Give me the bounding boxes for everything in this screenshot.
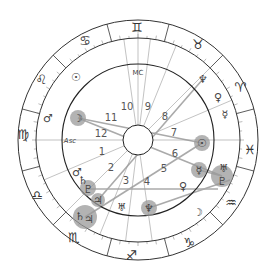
sign-aries-icon: ♈ — [234, 80, 246, 95]
house-number: 3 — [123, 175, 129, 186]
sign-virgo-icon: ♍ — [17, 127, 29, 142]
degree-tick — [85, 48, 87, 51]
house-number: 2 — [108, 162, 114, 173]
core-circle — [123, 125, 153, 155]
planet-mercury-icon: ☿ — [222, 108, 229, 121]
sign-divider — [164, 24, 169, 41]
degree-tick — [102, 236, 103, 240]
sign-divider — [237, 109, 254, 114]
planet-neptune-icon: ♆ — [144, 202, 154, 215]
degree-tick — [102, 40, 103, 44]
sign-divider — [237, 166, 254, 171]
planet-mars-icon: ♂ — [43, 112, 53, 125]
sign-divider — [53, 55, 66, 68]
degree-tick — [70, 59, 73, 62]
degree-tick — [70, 218, 73, 221]
degree-tick — [57, 206, 60, 209]
degree-tick — [156, 36, 157, 40]
sign-divider — [210, 212, 223, 225]
degree-tick — [173, 236, 174, 240]
house-number: 7 — [171, 127, 177, 138]
sign-divider — [210, 55, 223, 68]
sign-scorpio-icon: ♏ — [68, 230, 80, 245]
planet-venus-icon: ♀ — [214, 91, 222, 104]
degree-tick — [38, 104, 42, 105]
degree-tick — [204, 59, 207, 62]
degree-tick — [120, 36, 121, 40]
house-cusp — [140, 39, 151, 125]
degree-tick — [189, 48, 191, 51]
sign-leo-icon: ♌ — [35, 72, 47, 87]
sign-capricorn-icon: ♑ — [183, 235, 195, 250]
house-cusp — [124, 39, 136, 125]
degree-tick — [226, 191, 229, 193]
degree-tick — [226, 87, 229, 89]
degree-tick — [173, 40, 174, 44]
planet-neptune-icon: ♆ — [198, 73, 208, 86]
planet-jupiter-icon: ♃ — [93, 194, 103, 207]
house-number: 10 — [121, 101, 134, 112]
sign-cancer-icon: ♋ — [79, 33, 91, 48]
degree-tick — [120, 240, 121, 244]
sign-sagittarius-icon: ♐ — [125, 248, 137, 263]
planet-pluto-icon: ♇ — [83, 183, 93, 196]
degree-tick — [238, 158, 242, 159]
degree-tick — [216, 206, 219, 209]
degree-tick — [46, 191, 49, 193]
sign-divider — [22, 166, 39, 171]
sign-taurus-icon: ♉ — [192, 37, 204, 52]
degree-tick — [238, 122, 242, 123]
house-number: 12 — [95, 128, 108, 139]
planet-moon-icon: ☽ — [193, 206, 203, 219]
planet-uranus-icon: ♅ — [117, 201, 127, 214]
house-number: 5 — [161, 163, 167, 174]
degree-tick — [156, 240, 157, 244]
house-number: 9 — [145, 101, 151, 112]
astrology-chart: ♊♉♈♓♒♑♐♏♎♍♌♋ 123456789101112 ☉♂☽♆♀☿☉☿♅♇♀… — [0, 0, 274, 279]
asc-label: Asc — [63, 137, 76, 145]
degree-tick — [204, 218, 207, 221]
degree-tick — [216, 72, 219, 75]
degree-tick — [234, 175, 238, 176]
degree-tick — [34, 158, 38, 159]
degree-tick — [38, 175, 42, 176]
house-cusp — [140, 155, 152, 241]
sign-divider — [22, 109, 39, 114]
house-cusp — [144, 45, 177, 126]
house-number: 8 — [162, 111, 168, 122]
house-cusp — [100, 154, 133, 235]
sign-libra-icon: ♎ — [31, 188, 43, 203]
sign-gemini-icon: ♊ — [131, 20, 143, 35]
planet-venus-icon: ♀ — [179, 180, 187, 193]
planet-moon-icon: ☽ — [73, 112, 83, 125]
house-number: 4 — [144, 176, 150, 187]
degree-tick — [189, 228, 191, 231]
degree-tick — [34, 122, 38, 123]
sign-aquarius-icon: ♒ — [225, 195, 237, 210]
house-number: 1 — [99, 146, 105, 157]
sign-divider — [107, 24, 112, 41]
planet-pluto-icon: ♇ — [217, 175, 227, 188]
degree-tick — [46, 87, 49, 89]
house-cusp — [126, 155, 137, 241]
planet-jupiter-icon: ♃ — [84, 213, 94, 226]
sign-divider — [53, 212, 66, 225]
planet-mercury-icon: ☿ — [196, 164, 203, 177]
sign-divider — [164, 239, 169, 256]
degree-tick — [234, 104, 238, 105]
mc-label: MC — [133, 69, 144, 77]
sign-pisces-icon: ♓ — [244, 142, 256, 157]
house-number: 11 — [105, 112, 118, 123]
house-number: 6 — [172, 148, 178, 159]
planet-sun-icon: ☉ — [197, 137, 207, 150]
planet-sun-icon: ☉ — [71, 71, 81, 84]
planet-uranus-icon: ♅ — [219, 162, 229, 175]
degree-tick — [57, 72, 60, 75]
sign-divider — [107, 239, 112, 256]
chart-rings — [18, 20, 258, 260]
